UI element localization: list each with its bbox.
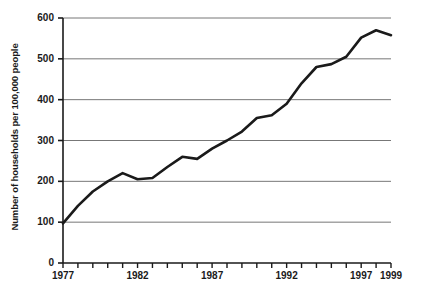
x-axis-tick-label: 1977 bbox=[41, 271, 85, 281]
x-axis-tick-label: 1982 bbox=[116, 271, 160, 281]
line-chart: Number of households per 100,000 people … bbox=[0, 0, 430, 295]
x-axis-tick-label: 1987 bbox=[190, 271, 234, 281]
x-axis-tick-label: 1992 bbox=[265, 271, 309, 281]
plot-area bbox=[0, 0, 430, 295]
x-axis-tick-labels: 197719821987199219971999 bbox=[0, 271, 430, 285]
x-axis-tick-label: 1999 bbox=[369, 271, 413, 281]
